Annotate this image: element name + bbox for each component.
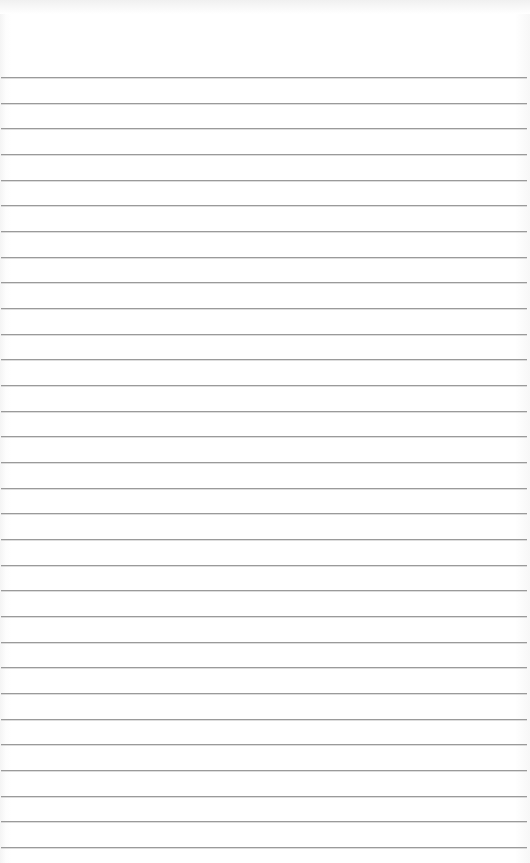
ruled-line bbox=[1, 513, 527, 514]
ruled-line bbox=[1, 128, 527, 129]
ruled-line bbox=[1, 796, 527, 797]
ruled-line bbox=[1, 359, 527, 360]
lined-paper bbox=[0, 0, 530, 863]
ruled-line bbox=[1, 180, 527, 181]
ruled-line bbox=[1, 205, 527, 206]
ruled-line bbox=[1, 744, 527, 745]
ruled-line bbox=[1, 154, 527, 155]
ruled-line bbox=[1, 770, 527, 771]
ruled-line bbox=[1, 103, 527, 104]
ruled-line bbox=[1, 257, 527, 258]
ruled-line bbox=[1, 411, 527, 412]
ruled-line bbox=[1, 385, 527, 386]
ruled-line bbox=[1, 539, 527, 540]
ruled-line bbox=[1, 821, 527, 822]
ruled-line bbox=[1, 231, 527, 232]
ruled-line bbox=[1, 488, 527, 489]
ruled-line bbox=[1, 667, 527, 668]
ruled-line bbox=[1, 642, 527, 643]
ruled-line bbox=[1, 436, 527, 437]
ruled-line bbox=[1, 719, 527, 720]
ruled-line bbox=[1, 693, 527, 694]
ruled-line bbox=[1, 334, 527, 335]
ruled-line bbox=[1, 77, 527, 78]
ruled-line bbox=[1, 590, 527, 591]
ruled-line bbox=[1, 565, 527, 566]
paper-top-edge bbox=[0, 0, 530, 14]
ruled-line bbox=[1, 308, 527, 309]
ruled-line bbox=[1, 462, 527, 463]
ruled-line bbox=[1, 616, 527, 617]
ruled-line bbox=[1, 282, 527, 283]
ruled-line bbox=[1, 847, 527, 848]
